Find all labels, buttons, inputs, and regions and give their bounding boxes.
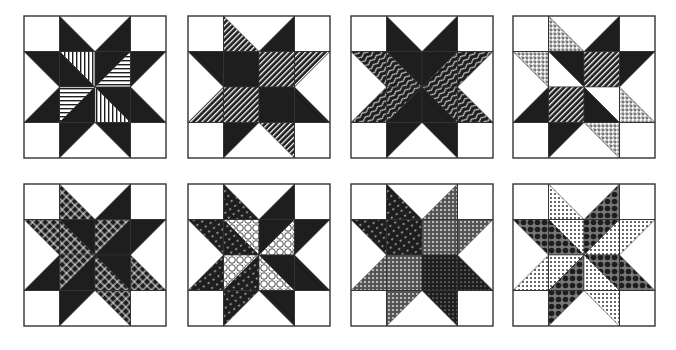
quilt-block-8: [512, 183, 656, 327]
quilt-block-7: [350, 183, 494, 327]
quilt-block-2: [187, 15, 331, 159]
fabric-piece: [422, 255, 458, 291]
fabric-piece: [387, 220, 423, 256]
fabric-piece: [549, 87, 585, 123]
fabric-piece: [259, 87, 295, 123]
quilt-block-4: [512, 15, 656, 159]
quilt-block-5: [23, 183, 167, 327]
fabric-piece: [224, 87, 260, 123]
quilt-block-3: [350, 15, 494, 159]
fabric-piece: [584, 52, 620, 88]
quilt-block-6: [187, 183, 331, 327]
fabric-piece: [387, 255, 423, 291]
fabric-piece: [422, 220, 458, 256]
fabric-piece: [259, 52, 295, 88]
fabric-piece: [224, 52, 260, 88]
quilt-block-1: [23, 15, 167, 159]
